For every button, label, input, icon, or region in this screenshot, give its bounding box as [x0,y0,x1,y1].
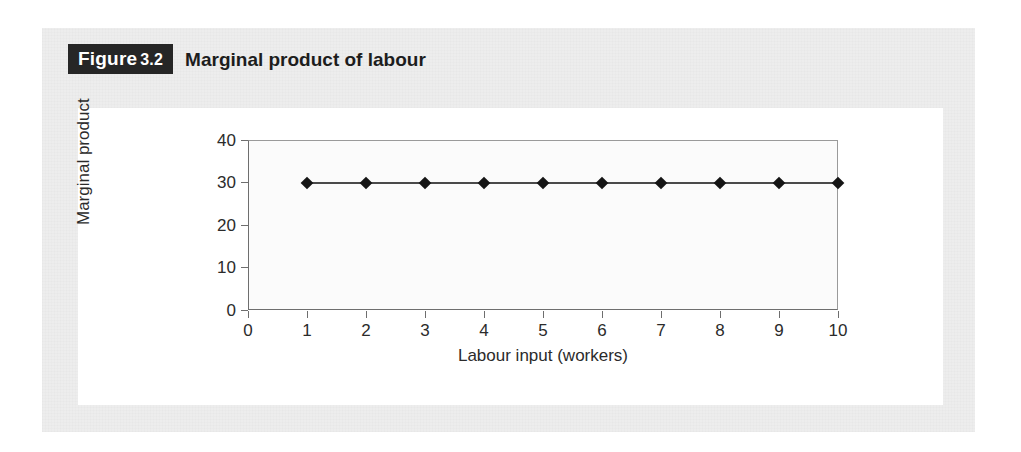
x-tick-mark [720,311,721,318]
y-tick-label: 0 [206,302,236,319]
figure-caption: Figure3.2 Marginal product of labour [68,44,426,74]
x-tick-label: 8 [715,322,724,339]
x-tick-label: 6 [597,322,606,339]
x-tick-label: 2 [361,322,370,339]
x-tick-label: 3 [420,322,429,339]
figure-caption-title: Marginal product of labour [185,50,426,69]
y-tick-label: 10 [206,259,236,276]
y-tick-label: 40 [206,132,236,149]
x-tick-mark [602,311,603,318]
chart-panel: Marginal product 40 30 20 10 0 [78,108,943,405]
y-tick-mark [241,267,248,268]
y-axis-title: Marginal product [74,98,94,225]
y-tick-mark [241,182,248,183]
x-tick-label: 10 [829,322,848,339]
x-axis-title: Labour input (workers) [248,346,838,366]
figure-number-badge: Figure3.2 [68,44,173,74]
y-tick-mark [241,140,248,141]
x-tick-mark [248,311,249,318]
figure-badge-number: 3.2 [140,51,163,68]
y-tick-label: 20 [206,217,236,234]
x-tick-mark [661,311,662,318]
figure-badge-prefix: Figure [78,48,137,69]
y-tick-mark [241,310,248,311]
x-tick-mark [543,311,544,318]
x-tick-label: 5 [538,322,547,339]
x-tick-label: 9 [774,322,783,339]
figure-panel: Figure3.2 Marginal product of labour Mar… [42,28,975,432]
plot-area [248,140,838,310]
y-tick-label: 30 [206,174,236,191]
x-tick-mark [307,311,308,318]
x-tick-mark [838,311,839,318]
x-tick-mark [366,311,367,318]
y-tick-mark [241,225,248,226]
x-tick-label: 1 [302,322,311,339]
x-tick-label: 4 [479,322,488,339]
x-tick-mark [779,311,780,318]
x-tick-mark [484,311,485,318]
x-tick-mark [425,311,426,318]
x-tick-label: 0 [243,322,252,339]
x-tick-label: 7 [656,322,665,339]
